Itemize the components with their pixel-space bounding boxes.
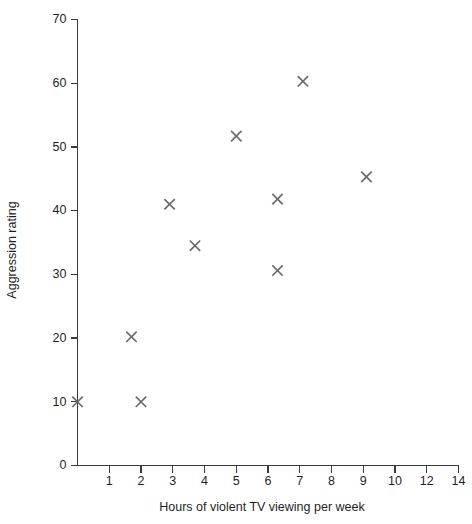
data-point-marker: [272, 265, 282, 275]
x-tick-label: 9: [360, 474, 367, 488]
data-points: [72, 76, 371, 407]
data-point-marker: [361, 172, 371, 182]
y-tick-label: 70: [53, 12, 67, 26]
data-point-marker: [272, 194, 282, 204]
data-point-marker: [298, 76, 308, 86]
data-point-marker: [190, 240, 200, 250]
x-tick-label: 6: [265, 474, 272, 488]
x-axis-ticks: 123456789101214: [106, 466, 466, 489]
x-tick-label: 7: [296, 474, 303, 488]
x-tick-label: 1: [106, 474, 113, 488]
x-tick-label: 10: [388, 474, 402, 488]
scatter-plot-canvas: 010203040506070 123456789101214 Hours of…: [0, 0, 472, 524]
y-tick-label: 30: [53, 267, 67, 281]
y-tick-label: 10: [53, 395, 67, 409]
data-point-marker: [231, 131, 241, 141]
y-tick-label: 60: [53, 76, 67, 90]
data-point-marker: [136, 397, 146, 407]
x-axis-label: Hours of violent TV viewing per week: [159, 500, 365, 514]
scatter-plot-figure: 010203040506070 123456789101214 Hours of…: [0, 0, 472, 524]
x-tick-label: 3: [169, 474, 176, 488]
data-point-marker: [126, 332, 136, 342]
y-tick-label: 0: [60, 458, 67, 472]
y-tick-label: 40: [53, 203, 67, 217]
data-point-marker: [164, 199, 174, 209]
x-tick-label: 4: [201, 474, 208, 488]
y-axis-ticks: 010203040506070: [53, 12, 78, 472]
x-tick-label: 2: [138, 474, 145, 488]
x-tick-label: 12: [420, 474, 434, 488]
y-tick-label: 20: [53, 331, 67, 345]
x-tick-label: 8: [328, 474, 335, 488]
x-tick-label: 14: [452, 474, 466, 488]
axes: [78, 20, 459, 466]
y-axis-label: Aggression rating: [5, 201, 19, 298]
x-tick-label: 5: [233, 474, 240, 488]
y-tick-label: 50: [53, 140, 67, 154]
